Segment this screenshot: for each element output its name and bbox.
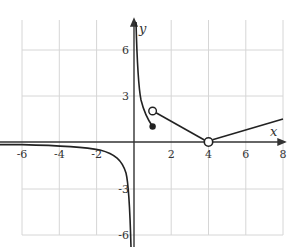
open-point-1-2 bbox=[149, 107, 157, 115]
svg-text:3: 3 bbox=[122, 90, 129, 103]
svg-text:-6: -6 bbox=[17, 148, 28, 161]
x-tick-labels: -6 -4 -2 2 4 6 8 bbox=[17, 148, 287, 161]
function-graph: x y -6 -4 -2 2 4 6 8 6 3 -3 -6 bbox=[0, 0, 298, 251]
svg-text:6: 6 bbox=[242, 148, 249, 161]
closed-point-1-1 bbox=[149, 123, 155, 129]
svg-text:8: 8 bbox=[280, 148, 287, 161]
x-axis-arrow-icon bbox=[278, 139, 285, 145]
segment-1 bbox=[156, 113, 204, 140]
open-point-5-0 bbox=[204, 138, 212, 146]
y-tick-labels: 6 3 -3 -6 bbox=[118, 44, 129, 242]
curves bbox=[0, 22, 283, 247]
svg-text:-6: -6 bbox=[118, 229, 129, 242]
x-axis-label: x bbox=[270, 124, 278, 139]
axes bbox=[0, 19, 285, 247]
y-axis-label: y bbox=[138, 21, 147, 36]
svg-text:-4: -4 bbox=[54, 148, 65, 161]
svg-text:2: 2 bbox=[168, 148, 175, 161]
svg-text:6: 6 bbox=[122, 44, 129, 57]
svg-text:4: 4 bbox=[205, 148, 212, 161]
